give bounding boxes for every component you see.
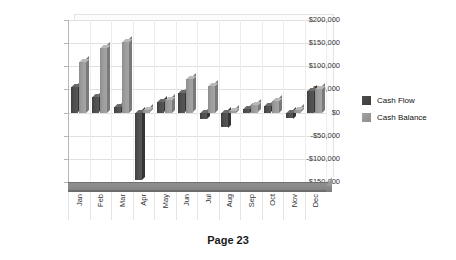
x-axis-tick	[68, 192, 69, 220]
bar-series-container	[68, 20, 326, 182]
x-axis-labels: JanFebMarAprMayJunJulAugSepOctNovDec	[68, 192, 326, 226]
legend-label-cash-balance: Cash Balance	[377, 113, 427, 122]
legend-item-cash-balance: Cash Balance	[362, 109, 454, 126]
x-axis-label-apr: Apr	[139, 194, 148, 206]
bar-cash-flow-may	[157, 102, 164, 112]
bar-front-face	[157, 102, 164, 112]
bar-cash-flow-jun	[178, 93, 185, 112]
x-axis-label-aug: Aug	[225, 194, 234, 207]
bar-cash-flow-dec	[307, 91, 314, 113]
chart-legend: Cash Flow Cash Balance	[362, 92, 454, 126]
bar-front-face	[186, 79, 193, 112]
x-axis-tick	[283, 192, 284, 220]
bar-front-face	[100, 48, 107, 113]
page-footer: Page 23	[0, 234, 456, 246]
bar-side-face	[193, 73, 196, 112]
bar-front-face	[143, 110, 150, 112]
bar-front-face	[307, 91, 314, 113]
bar-front-face	[208, 86, 215, 113]
bar-front-face	[315, 89, 322, 113]
x-axis-tick	[176, 192, 177, 220]
cash-flow-chart: $200,000$150,000$100,000$50,000$0-$50,00…	[0, 0, 340, 230]
legend-item-cash-flow: Cash Flow	[362, 92, 454, 109]
bar-cash-balance-jun	[186, 79, 193, 112]
bar-front-face	[71, 87, 78, 112]
bar-cash-balance-nov	[294, 110, 301, 112]
bar-cash-balance-jul	[208, 86, 215, 113]
x-axis-label-jun: Jun	[182, 194, 191, 206]
bar-front-face	[92, 97, 99, 112]
bar-front-face	[264, 106, 271, 112]
x-axis-label-mar: Mar	[118, 194, 127, 207]
x-axis-label-dec: Dec	[311, 194, 320, 207]
bar-cash-balance-oct	[272, 101, 279, 113]
bar-front-face	[200, 113, 207, 119]
bar-cash-flow-sep	[243, 109, 250, 113]
bar-cash-flow-jul	[200, 113, 207, 119]
bar-front-face	[272, 101, 279, 113]
bar-front-face	[294, 110, 301, 112]
x-axis-label-jul: Jul	[204, 194, 213, 204]
x-axis-tick	[90, 192, 91, 220]
bar-front-face	[79, 62, 86, 113]
bar-cash-balance-feb	[100, 48, 107, 113]
bar-cash-balance-jan	[79, 62, 86, 113]
bar-front-face	[286, 113, 293, 119]
bar-cash-balance-mar	[122, 42, 129, 113]
x-axis-label-oct: Oct	[268, 194, 277, 206]
bar-side-face	[86, 56, 89, 113]
bar-front-face	[251, 105, 258, 112]
x-axis-label-feb: Feb	[96, 194, 105, 207]
x-axis-label-may: May	[161, 194, 170, 208]
bar-front-face	[135, 113, 142, 180]
bar-front-face	[114, 107, 121, 113]
x-axis-tick	[262, 192, 263, 220]
bar-side-face	[129, 36, 132, 113]
chart-page: $200,000$150,000$100,000$50,000$0-$50,00…	[0, 0, 456, 260]
bar-front-face	[165, 100, 172, 113]
x-axis-tick	[305, 192, 306, 220]
bar-cash-flow-feb	[92, 97, 99, 112]
x-axis-tick	[219, 192, 220, 220]
x-axis-label-nov: Nov	[290, 194, 299, 207]
x-axis-tick	[154, 192, 155, 220]
legend-label-cash-flow: Cash Flow	[377, 96, 415, 105]
legend-swatch-icon-cash-flow	[362, 96, 371, 105]
legend-swatch-icon-cash-balance	[362, 113, 371, 122]
bar-front-face	[178, 93, 185, 112]
bar-cash-balance-may	[165, 100, 172, 113]
bar-side-face	[142, 107, 145, 180]
bar-front-face	[122, 42, 129, 113]
bar-cash-balance-aug	[229, 111, 236, 113]
bar-cash-flow-jan	[71, 87, 78, 112]
x-axis-tick	[197, 192, 198, 220]
bar-cash-flow-oct	[264, 106, 271, 112]
bar-cash-balance-dec	[315, 89, 322, 113]
bar-cash-balance-sep	[251, 105, 258, 112]
x-axis-tick	[111, 192, 112, 220]
bar-cash-flow-aug	[221, 113, 228, 128]
x-axis-label-sep: Sep	[247, 194, 256, 207]
x-axis-label-jan: Jan	[75, 194, 84, 206]
bar-cash-flow-apr	[135, 113, 142, 180]
x-axis-tick	[240, 192, 241, 220]
bar-cash-balance-apr	[143, 110, 150, 112]
bar-cash-flow-nov	[286, 113, 293, 119]
bar-side-face	[107, 42, 110, 113]
bar-cash-flow-mar	[114, 107, 121, 113]
x-axis-tick	[133, 192, 134, 220]
bar-front-face	[243, 109, 250, 113]
bar-front-face	[221, 113, 228, 128]
